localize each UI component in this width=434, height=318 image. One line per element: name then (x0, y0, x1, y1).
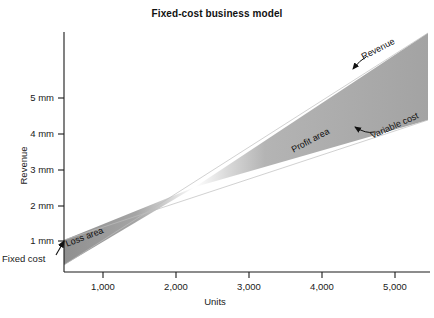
y-tick-label-1mm: 1 mm (14, 235, 54, 246)
loss-area-wedge (64, 187, 195, 265)
y-axis-ticks (58, 98, 64, 241)
x-tick-label-5000: 5,000 (370, 281, 420, 292)
chart-title: Fixed-cost business model (0, 8, 434, 19)
fixed-cost-leader-arrow (56, 241, 64, 255)
y-tick-label-2mm: 2 mm (14, 200, 54, 211)
x-tick-label-1000: 1,000 (78, 281, 128, 292)
x-tick-label-2000: 2,000 (151, 281, 201, 292)
x-tick-label-3000: 3,000 (224, 281, 274, 292)
x-tick-label-4000: 4,000 (297, 281, 347, 292)
fixed-cost-annotation: Fixed cost (2, 253, 45, 264)
y-tick-label-5mm: 5 mm (14, 92, 54, 103)
x-axis-title: Units (160, 296, 270, 307)
profit-area-wedge (195, 33, 428, 187)
y-axis-title: Revenue (18, 131, 29, 201)
chart-figure: Fixed-cost business model 5 mm 4 mm 3 mm… (0, 0, 434, 318)
revenue-line (64, 33, 428, 265)
x-axis-ticks (103, 272, 395, 278)
